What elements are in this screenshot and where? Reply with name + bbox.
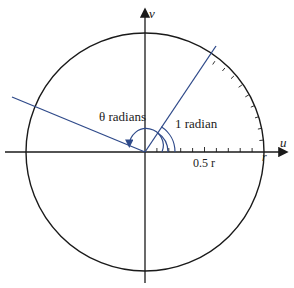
one-radian-label: 1 radian <box>175 116 218 131</box>
theta-ray <box>12 97 145 152</box>
u-axis-label: u <box>280 135 287 150</box>
theta-label: θ radians <box>99 109 146 124</box>
r-label: r <box>262 150 267 164</box>
one-radian-ray <box>145 46 216 152</box>
radian-diagram: θ radians 1 radian 0.5 r r u v <box>0 0 294 288</box>
v-axis-label: v <box>149 6 155 21</box>
u-axis-ticks <box>157 147 252 152</box>
half-r-label: 0.5 r <box>193 156 215 170</box>
arc-ticks <box>213 61 264 140</box>
